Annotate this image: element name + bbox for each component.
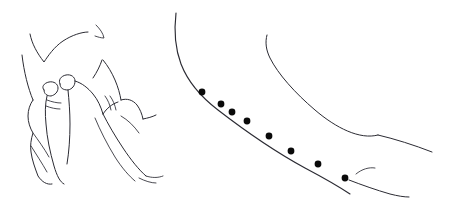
marker-dot (244, 118, 251, 125)
figure-root (0, 0, 457, 207)
marker-dot (229, 109, 236, 116)
marker-dot (218, 101, 225, 108)
marker-dot (199, 89, 206, 96)
marker-dot (288, 148, 295, 155)
marker-dot (315, 161, 322, 168)
illustration-canvas (0, 0, 457, 207)
marker-dot (342, 175, 349, 182)
canvas-background (0, 0, 457, 207)
marker-dot (266, 133, 273, 140)
